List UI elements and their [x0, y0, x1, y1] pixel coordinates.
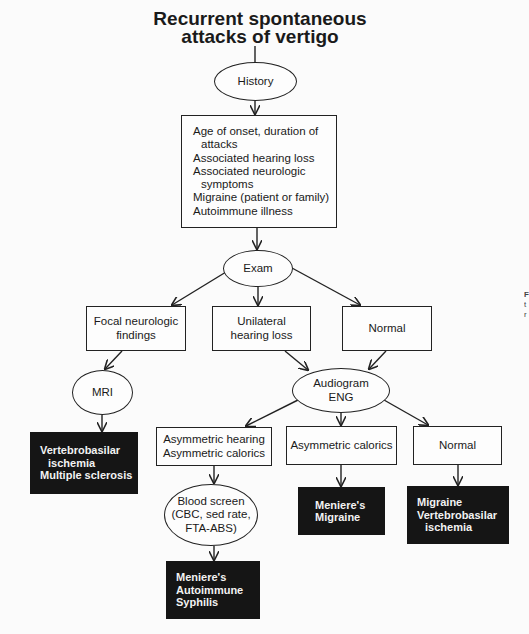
edge-exam-normal [292, 268, 360, 305]
edge-audiogram-normal [384, 400, 428, 425]
node-asymmetric-calorics: Asymmetric calorics [286, 426, 397, 465]
edge-normal-audiogram [369, 351, 386, 369]
node-blood-diagnosis: Meniere's Autoimmune Syphilis [166, 561, 260, 619]
diagnosis-line: Vertebrobasilar [40, 444, 120, 457]
normal-audio-label: Normal [439, 439, 476, 453]
mri-label: MRI [92, 386, 113, 400]
asym-line: Asymmetric hearing [163, 433, 265, 447]
unilateral-line: hearing loss [230, 329, 292, 343]
node-normal-audiogram: Normal [413, 426, 502, 465]
history-item: Associated hearing loss [193, 152, 314, 165]
focal-line: findings [116, 329, 156, 343]
diagnosis-line: Syphilis [176, 596, 218, 609]
edge-audiogram-asymboth [246, 400, 298, 426]
diagnosis-line: Meniere's [176, 571, 226, 584]
history-item: attacks [193, 138, 237, 151]
node-mri: MRI [72, 370, 133, 415]
history-item: Migraine (patient or family) [193, 191, 329, 204]
fragment-line: r [524, 310, 529, 320]
node-focal-neurologic: Focal neurologic findings [86, 306, 186, 351]
node-history-items: Age of onset, duration of attacks Associ… [181, 115, 337, 228]
node-mri-diagnosis: Vertebrobasilar ischemia Multiple sclero… [30, 432, 138, 494]
audiogram-line: ENG [329, 391, 354, 405]
history-item: Associated neurologic [193, 165, 306, 178]
exam-label: Exam [243, 262, 272, 276]
fragment-line: t [524, 300, 529, 310]
diagnosis-line: Vertebrobasilar [417, 509, 497, 522]
edge-focal-mri [105, 351, 122, 369]
page-title: Recurrent spontaneous attacks of vertigo [140, 10, 380, 46]
history-item: Autoimmune illness [193, 205, 293, 218]
node-normal-exam: Normal [342, 306, 432, 351]
edge-unilateral-audiogram [285, 351, 308, 370]
diagnosis-line: Meniere's [315, 499, 365, 512]
node-calorics-diagnosis: Meniere's Migraine [298, 487, 385, 535]
history-item: symptoms [193, 178, 253, 191]
edge-exam-focal [172, 272, 226, 305]
blood-line: Blood screen [177, 495, 244, 509]
node-unilateral-hearing-loss: Unilateral hearing loss [212, 306, 311, 351]
node-history: History [214, 62, 297, 101]
node-normal-diagnosis: Migraine Vertebrobasilar ischemia [407, 486, 509, 544]
asym-line: Asymmetric calorics [163, 447, 265, 461]
diagnosis-line: Multiple sclerosis [40, 469, 132, 482]
diagnosis-line: ischemia [417, 521, 472, 534]
title-line-2: attacks of vertigo [140, 28, 380, 46]
normal-exam-label: Normal [368, 322, 405, 336]
fragment-line: F [524, 290, 529, 300]
history-item: Age of onset, duration of [193, 125, 318, 138]
node-exam: Exam [223, 250, 293, 287]
diagnosis-line: Migraine [315, 511, 360, 524]
diagnosis-line: Migraine [417, 496, 462, 509]
node-asymmetric-hearing-calorics: Asymmetric hearing Asymmetric calorics [156, 427, 272, 466]
diagnosis-line: Autoimmune [176, 584, 243, 597]
unilateral-line: Unilateral [237, 315, 286, 329]
audiogram-line: Audiogram [313, 377, 369, 391]
cropped-caption-fragment: F t r [524, 290, 529, 320]
focal-line: Focal neurologic [94, 315, 178, 329]
blood-line: (CBC, sed rate, [171, 508, 250, 522]
history-label: History [238, 75, 274, 89]
node-audiogram-eng: Audiogram ENG [292, 368, 390, 413]
diagnosis-line: ischemia [40, 457, 95, 470]
node-blood-screen: Blood screen (CBC, sed rate, FTA-ABS) [164, 484, 258, 546]
asym-calorics-label: Asymmetric calorics [290, 439, 392, 453]
blood-line: FTA-ABS) [185, 522, 237, 536]
